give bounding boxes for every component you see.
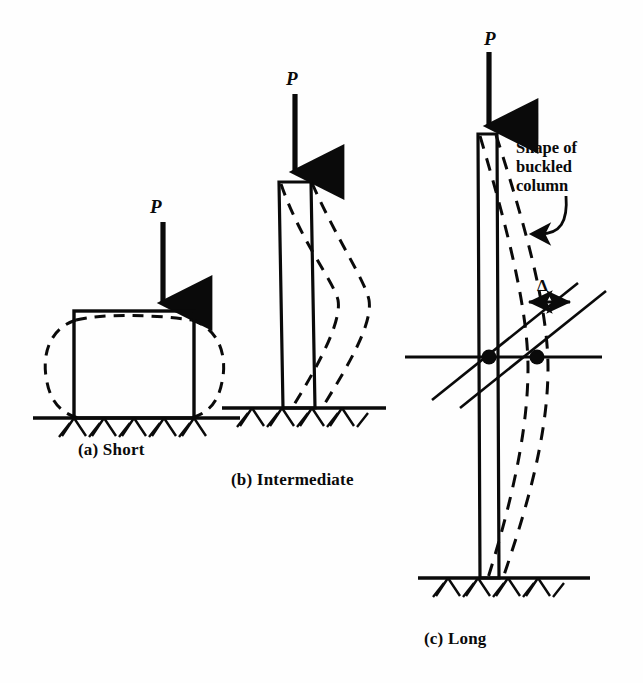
short-bulge-right [191, 320, 224, 418]
intermediate-buckled-inner [281, 184, 338, 408]
node-dot-original [482, 350, 497, 365]
short-column-body [74, 311, 194, 418]
figure-linework [0, 0, 643, 683]
intermediate-buckled-outer [312, 183, 369, 408]
caption-long: (c) Long [424, 629, 487, 649]
buckled-shape-line-3: column [516, 176, 577, 195]
caption-short: (a) Short [78, 440, 145, 460]
section-line-deflected [460, 291, 606, 408]
buckled-shape-leader [540, 196, 566, 234]
ground-support-intermediate [222, 408, 386, 427]
buckled-shape-annotation: Shape of buckled column [516, 138, 577, 195]
node-dot-deflected [530, 350, 545, 365]
column-buckling-figure: P P P (a) Short (b) Intermediate (c) Lon… [0, 0, 643, 683]
buckled-shape-line-2: buckled [516, 157, 577, 176]
panel-long [405, 52, 606, 597]
ground-support-long [418, 578, 590, 597]
intermediate-column-body [279, 182, 315, 408]
load-label-long: P [484, 28, 496, 50]
load-label-intermediate: P [286, 68, 298, 90]
caption-intermediate: (b) Intermediate [231, 470, 354, 490]
panel-short [33, 222, 240, 437]
load-label-short: P [150, 196, 162, 218]
section-line-original [432, 283, 578, 400]
panel-intermediate [222, 94, 386, 427]
deflection-symbol-label: Δ [537, 276, 548, 296]
buckled-shape-line-1: Shape of [516, 138, 577, 157]
ground-support-short [33, 418, 240, 437]
short-settled-top [76, 316, 192, 321]
